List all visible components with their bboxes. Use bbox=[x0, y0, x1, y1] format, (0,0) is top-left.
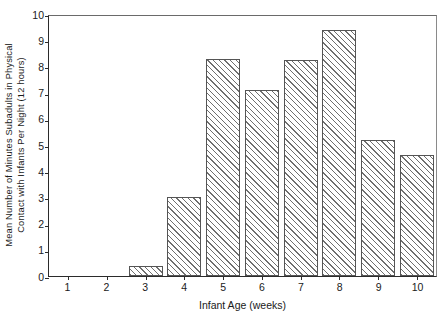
x-tick-label: 6 bbox=[242, 281, 282, 293]
y-tick-mark bbox=[45, 226, 49, 227]
bar-slot bbox=[320, 16, 359, 276]
x-axis-title: Infant Age (weeks) bbox=[48, 299, 437, 311]
bar-slot bbox=[243, 16, 282, 276]
x-tick-mark bbox=[68, 276, 69, 280]
y-tick-mark bbox=[45, 16, 49, 17]
bar-slot bbox=[359, 16, 398, 276]
y-axis-tick-labels: 012345678910 bbox=[26, 0, 44, 319]
x-tick-label: 4 bbox=[164, 281, 204, 293]
y-axis-title-line-2: Contact with Infants Per Night (12 hours… bbox=[15, 43, 27, 247]
y-tick-label: 9 bbox=[28, 36, 44, 47]
bar-slot bbox=[397, 16, 436, 276]
y-tick-label: 2 bbox=[28, 219, 44, 230]
x-tick-label: 5 bbox=[203, 281, 243, 293]
x-tick-label: 9 bbox=[359, 281, 399, 293]
bar-slot bbox=[165, 16, 204, 276]
y-axis-title-text: Mean Number of Minutes Subadults in Phys… bbox=[4, 43, 27, 247]
x-tick-label: 3 bbox=[125, 281, 165, 293]
y-tick-mark bbox=[45, 199, 49, 200]
bar[interactable] bbox=[284, 60, 318, 276]
y-tick-mark bbox=[45, 95, 49, 96]
y-tick-label: 0 bbox=[28, 272, 44, 283]
x-tick-label: 8 bbox=[320, 281, 360, 293]
bar-slot bbox=[49, 16, 88, 276]
x-tick-mark bbox=[223, 276, 224, 280]
bar[interactable] bbox=[129, 266, 163, 276]
y-tick-label: 8 bbox=[28, 62, 44, 73]
bar-slot bbox=[88, 16, 127, 276]
x-tick-mark bbox=[107, 276, 108, 280]
x-tick-mark bbox=[378, 276, 379, 280]
bar[interactable] bbox=[361, 140, 395, 277]
bar[interactable] bbox=[400, 155, 434, 276]
bar-chart-figure: Mean Number of Minutes Subadults in Phys… bbox=[0, 0, 445, 319]
x-tick-mark bbox=[417, 276, 418, 280]
y-tick-mark bbox=[45, 147, 49, 148]
x-tick-mark bbox=[339, 276, 340, 280]
y-tick-label: 3 bbox=[28, 193, 44, 204]
bar[interactable] bbox=[322, 30, 356, 276]
y-tick-label: 7 bbox=[28, 88, 44, 99]
y-tick-mark bbox=[45, 173, 49, 174]
y-tick-mark bbox=[45, 42, 49, 43]
y-tick-mark bbox=[45, 121, 49, 122]
x-tick-mark bbox=[184, 276, 185, 280]
y-tick-mark bbox=[45, 278, 49, 279]
bar[interactable] bbox=[206, 59, 240, 276]
y-tick-label: 5 bbox=[28, 141, 44, 152]
x-tick-label: 1 bbox=[47, 281, 87, 293]
x-axis-tick-labels: 12345678910 bbox=[48, 281, 437, 297]
x-tick-label: 7 bbox=[281, 281, 321, 293]
bar[interactable] bbox=[245, 90, 279, 276]
y-tick-label: 1 bbox=[28, 245, 44, 256]
bar-slot bbox=[204, 16, 243, 276]
plot-area bbox=[48, 15, 437, 277]
y-tick-mark bbox=[45, 68, 49, 69]
x-tick-label: 10 bbox=[398, 281, 438, 293]
x-tick-mark bbox=[262, 276, 263, 280]
bar[interactable] bbox=[167, 197, 201, 276]
bar-series bbox=[49, 16, 436, 276]
bar-slot bbox=[281, 16, 320, 276]
y-axis-title-line-1: Mean Number of Minutes Subadults in Phys… bbox=[4, 43, 16, 247]
y-tick-label: 4 bbox=[28, 167, 44, 178]
y-tick-label: 6 bbox=[28, 114, 44, 125]
y-tick-label: 10 bbox=[28, 10, 44, 21]
y-tick-mark bbox=[45, 252, 49, 253]
x-tick-mark bbox=[301, 276, 302, 280]
bar-slot bbox=[126, 16, 165, 276]
x-tick-mark bbox=[146, 276, 147, 280]
x-tick-label: 2 bbox=[86, 281, 126, 293]
